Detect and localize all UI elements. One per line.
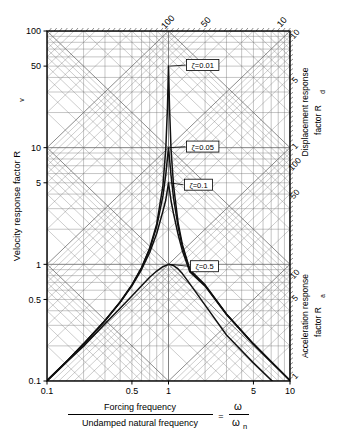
displacement-title-line1: Displacement response <box>300 67 310 156</box>
x-tick-label-bottom: 0.1 <box>41 386 54 396</box>
annotation-label: ζ=0.5 <box>195 262 213 271</box>
x-tick-label-bottom: 1 <box>166 386 171 396</box>
x-axis-title-equals: = <box>218 411 223 421</box>
tripartite-response-spectrum-figure: 0.10.51510501000.10.51510100501010511005… <box>0 0 340 439</box>
annotation-label: ζ=0.01 <box>192 61 214 70</box>
chart-page: 0.10.51510501000.10.51510100501010511005… <box>0 0 340 439</box>
x-tick-label-bottom: 5 <box>251 386 256 396</box>
annotation-label: ζ=0.1 <box>189 181 207 190</box>
x-axis-title-omega-numerator: ω <box>234 401 242 412</box>
displacement-title-line2: factor R <box>313 105 323 135</box>
x-axis-title-numerator: Forcing frequency <box>104 402 177 412</box>
y-axis-left-title-text: Velocity response factor R <box>11 151 22 261</box>
y-tick-label-left: 50 <box>31 61 41 71</box>
acceleration-title-subscript: a <box>319 294 326 298</box>
y-tick-label-left: 1 <box>36 260 41 270</box>
y-tick-label-left: 0.5 <box>28 295 41 305</box>
y-tick-label-left: 10 <box>31 143 41 153</box>
x-tick-label-bottom: 10 <box>285 386 295 396</box>
y-tick-label-left: 0.1 <box>28 376 41 386</box>
x-axis-title-omega-denominator: ω <box>232 417 240 428</box>
acceleration-title-line2: factor R <box>313 307 323 337</box>
y-tick-label-left: 100 <box>26 26 41 36</box>
y-tick-label-left: 5 <box>36 178 41 188</box>
x-tick-label-bottom: 0.5 <box>126 386 139 396</box>
x-axis-title-omega-denominator-subscript: n <box>243 422 247 431</box>
annotation-label: ζ=0.05 <box>192 143 214 152</box>
x-axis-title-denominator: Undamped natural frequency <box>82 418 199 428</box>
y-axis-left-title-subscript: v <box>18 98 25 102</box>
acceleration-title-line1: Acceleration response <box>300 274 310 358</box>
displacement-title-subscript: d <box>319 90 326 94</box>
